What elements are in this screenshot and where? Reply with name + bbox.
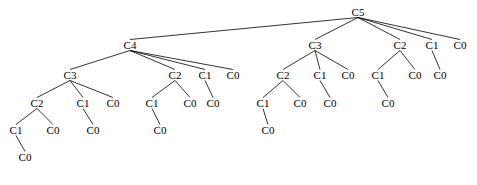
tree-node: C4 <box>124 40 137 51</box>
tree-node: C0 <box>207 98 220 109</box>
tree-edge <box>16 109 37 125</box>
tree-edge <box>320 81 330 98</box>
tree-node: C0 <box>47 125 60 136</box>
tree-edge <box>130 18 358 40</box>
tree-node: C2 <box>277 70 290 81</box>
tree-edge <box>283 81 300 98</box>
tree-edge <box>263 81 283 98</box>
tree-node: C0 <box>87 125 100 136</box>
tree-edge <box>152 109 160 125</box>
tree-edge <box>37 109 53 125</box>
tree-node: C3 <box>309 40 322 51</box>
tree-node: C0 <box>434 70 447 81</box>
tree-node: C1 <box>77 98 90 109</box>
tree-node: C1 <box>199 70 212 81</box>
tree-edge <box>315 51 348 70</box>
tree-node: C0 <box>19 152 32 163</box>
tree-node: C0 <box>454 40 467 51</box>
tree-edge <box>70 51 130 70</box>
tree-node: C2 <box>394 40 407 51</box>
tree-node: C2 <box>31 98 44 109</box>
tree-edge <box>432 51 440 70</box>
tree-edge <box>175 81 190 98</box>
tree-node: C0 <box>107 98 120 109</box>
tree-root-node: C5 <box>352 7 365 18</box>
tree-node: C0 <box>154 125 167 136</box>
tree-edge <box>83 109 93 125</box>
tree-node: C0 <box>262 125 275 136</box>
tree-diagram-canvas: C5C4C3C2C1C0C3C2C1C0C2C1C0C1C0C0C2C1C0C1… <box>0 0 477 185</box>
tree-edge <box>152 81 175 98</box>
tree-edge <box>358 18 432 40</box>
tree-edge <box>378 51 400 70</box>
tree-node: C0 <box>342 70 355 81</box>
tree-node: C0 <box>184 98 197 109</box>
tree-edge <box>263 109 268 125</box>
tree-edge <box>130 51 233 70</box>
tree-node: C0 <box>324 98 337 109</box>
tree-node: C2 <box>169 70 182 81</box>
tree-edge <box>283 51 315 70</box>
tree-node: C0 <box>294 98 307 109</box>
tree-node: C0 <box>382 98 395 109</box>
tree-edge-layer <box>0 0 477 185</box>
tree-node: C0 <box>227 70 240 81</box>
tree-node: C1 <box>146 98 159 109</box>
tree-edge <box>400 51 415 70</box>
tree-node: C1 <box>10 125 23 136</box>
tree-edge <box>37 81 70 98</box>
tree-edge <box>378 81 388 98</box>
tree-node: C1 <box>314 70 327 81</box>
tree-edge <box>358 18 460 40</box>
tree-node: C1 <box>257 98 270 109</box>
tree-node: C0 <box>409 70 422 81</box>
tree-node: C1 <box>372 70 385 81</box>
tree-edge <box>205 81 213 98</box>
tree-edge <box>16 136 25 152</box>
tree-node: C3 <box>64 70 77 81</box>
tree-node: C1 <box>426 40 439 51</box>
